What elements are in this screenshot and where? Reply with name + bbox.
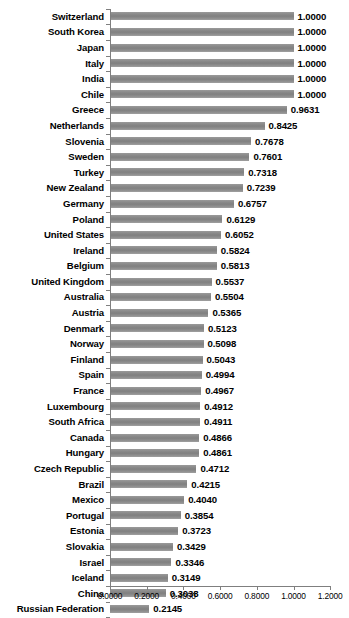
bar (110, 543, 173, 551)
bar-row: Russian Federation0.2145 (0, 601, 349, 617)
bar-track: 1.0000 (110, 87, 349, 103)
category-axis-line (110, 9, 111, 587)
category-tick (106, 602, 110, 603)
bar (110, 278, 212, 286)
bar-row: Switzerland1.0000 (0, 9, 349, 25)
category-tick (106, 24, 110, 25)
bar-row: India1.0000 (0, 71, 349, 87)
bar-value-label: 0.4040 (188, 492, 217, 508)
bar-track: 0.4861 (110, 445, 349, 461)
category-label: Japan (77, 40, 104, 56)
bar (110, 44, 294, 52)
category-label: United Kingdom (31, 274, 104, 290)
category-label: New Zealand (46, 180, 104, 196)
category-label: Hungary (66, 445, 104, 461)
bar-value-label: 0.5365 (212, 305, 241, 321)
category-label: Israel (80, 555, 104, 571)
value-axis-tick-label: 1.2000 (318, 591, 343, 601)
category-label: India (82, 71, 104, 87)
bar-track: 0.8425 (110, 118, 349, 134)
bar-value-label: 1.0000 (298, 24, 327, 40)
bar-row: New Zealand0.7239 (0, 180, 349, 196)
value-axis-tick (294, 586, 295, 590)
category-tick (106, 258, 110, 259)
category-tick (106, 40, 110, 41)
bar (110, 356, 203, 364)
bar-value-label: 0.8425 (269, 118, 298, 134)
category-label: Sweden (68, 149, 104, 165)
bar-row: Ireland0.5824 (0, 243, 349, 259)
bar-track: 0.7678 (110, 134, 349, 150)
category-label: France (73, 383, 104, 399)
category-label: Luxembourg (47, 399, 104, 415)
category-tick (106, 524, 110, 525)
bar-value-label: 0.4994 (206, 367, 235, 383)
bar-row: Czech Republic0.4712 (0, 461, 349, 477)
category-tick (106, 56, 110, 57)
category-tick (106, 414, 110, 415)
bar-value-label: 0.6052 (225, 227, 254, 243)
bar (110, 418, 200, 426)
bar-row: Belgium0.5813 (0, 258, 349, 274)
bar-row: Hungary0.4861 (0, 445, 349, 461)
category-label: Denmark (64, 321, 104, 337)
bar-row: Italy1.0000 (0, 56, 349, 72)
value-axis-tick-label: 0.8000 (244, 591, 269, 601)
category-label: United States (44, 227, 104, 243)
bar-track: 0.4215 (110, 477, 349, 493)
bar (110, 465, 196, 473)
category-label: Norway (70, 336, 104, 352)
bar-track: 0.3149 (110, 570, 349, 586)
bar-track: 1.0000 (110, 24, 349, 40)
bar (110, 137, 251, 145)
bar (110, 496, 184, 504)
bar-row: Slovenia0.7678 (0, 134, 349, 150)
bar (110, 387, 201, 395)
bar-value-label: 0.2145 (153, 601, 182, 617)
category-label: Chile (81, 87, 104, 103)
bar-value-label: 0.6129 (226, 212, 255, 228)
category-tick (106, 368, 110, 369)
bar-value-label: 0.4911 (204, 414, 232, 430)
bar (110, 324, 204, 332)
category-tick (106, 9, 110, 10)
bar (110, 59, 294, 67)
bar (110, 28, 294, 36)
bar (110, 558, 171, 566)
category-label: Switzerland (52, 9, 104, 25)
category-tick (106, 352, 110, 353)
bar-track: 0.3723 (110, 523, 349, 539)
bar-value-label: 0.5504 (215, 289, 244, 305)
bar-track: 0.6757 (110, 196, 349, 212)
category-tick (106, 461, 110, 462)
bar-track: 0.7601 (110, 149, 349, 165)
bar-value-label: 0.3149 (172, 570, 201, 586)
bar (110, 168, 244, 176)
bar-row: Germany0.6757 (0, 196, 349, 212)
category-tick (106, 430, 110, 431)
category-label: Germany (63, 196, 104, 212)
bar (110, 231, 221, 239)
bar (110, 246, 217, 254)
bar-track: 1.0000 (110, 71, 349, 87)
bar-track: 0.4967 (110, 383, 349, 399)
category-label: Netherlands (50, 118, 104, 134)
bar-value-label: 0.4866 (203, 430, 232, 446)
bar-value-label: 0.4215 (191, 477, 220, 493)
bar (110, 106, 287, 114)
bar-track: 0.3854 (110, 508, 349, 524)
category-tick (106, 570, 110, 571)
bar-row: Israel0.3346 (0, 555, 349, 571)
bar-track: 0.5123 (110, 321, 349, 337)
bar-value-label: 0.6757 (238, 196, 267, 212)
category-tick (106, 87, 110, 88)
category-label: Spain (78, 367, 104, 383)
bar-row: South Africa0.4911 (0, 414, 349, 430)
bar-value-label: 0.7678 (255, 134, 284, 150)
bar-row: France0.4967 (0, 383, 349, 399)
bar-row: United Kingdom0.5537 (0, 274, 349, 290)
category-tick (106, 508, 110, 509)
value-axis-tick-label: 1.0000 (281, 591, 306, 601)
category-label: Czech Republic (34, 461, 104, 477)
bar-value-label: 1.0000 (298, 40, 327, 56)
